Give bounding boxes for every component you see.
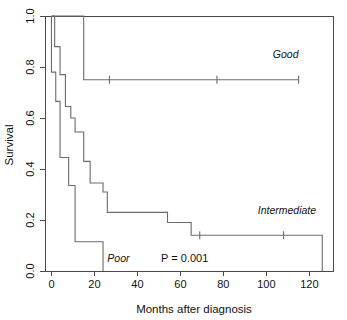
y-tick-label: 0.8 [24,59,36,74]
x-tick-label: 100 [257,278,275,290]
x-tick-label: 60 [174,278,186,290]
series-label-intermediate: Intermediate [258,204,317,216]
y-tick-label: 0.6 [24,110,36,125]
x-tick-label: 40 [131,278,143,290]
survival-curve-poor [51,16,103,271]
x-tick-label: 0 [48,278,54,290]
series-labels: GoodIntermediatePoor [107,48,316,264]
y-tick-label: 0.4 [24,161,36,176]
chart-figure: 020406080100120 0.00.20.40.60.81.0 GoodI… [0,0,347,320]
y-tick-label: 0.0 [24,263,36,278]
series-label-good: Good [273,48,300,60]
x-tick-label: 80 [217,278,229,290]
y-axis-title: Survival [3,125,15,166]
y-tick-label: 0.2 [24,212,36,227]
y-tick-label: 1.0 [24,8,36,23]
x-axis-title: Months after diagnosis [136,303,252,315]
chart-annotations: P = 0.001 [161,252,208,264]
y-axis-ticks [40,16,45,271]
x-axis-ticks [51,271,309,276]
x-tick-label: 120 [300,278,318,290]
x-tick-label: 20 [88,278,100,290]
y-axis-tick-labels: 0.00.20.40.60.81.0 [24,8,36,278]
kaplan-meier-chart: 020406080100120 0.00.20.40.60.81.0 GoodI… [0,0,347,320]
series-label-poor: Poor [107,252,130,264]
survival-curve-good [51,16,298,80]
annotation-p-value: P = 0.001 [161,252,208,264]
x-axis-tick-labels: 020406080100120 [48,278,318,290]
